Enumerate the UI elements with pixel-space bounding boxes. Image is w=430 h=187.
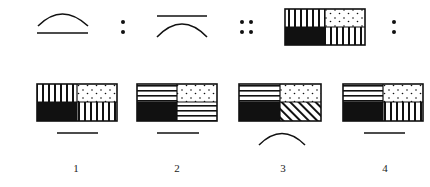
option-1[interactable] (37, 84, 117, 133)
option-3-label: 3 (273, 162, 293, 174)
stem-figure-arc-above-line (37, 14, 88, 33)
option-2[interactable] (137, 84, 217, 133)
ratio-colon-2 (392, 20, 396, 34)
analogy-diagram (0, 0, 430, 187)
option-1-label: 1 (66, 162, 86, 174)
option-4[interactable] (343, 84, 423, 133)
stem-quad-box (285, 9, 365, 45)
stem-figure-line-above-arc (157, 16, 207, 37)
analogy-double-colon (240, 20, 253, 34)
option-4-label: 4 (375, 162, 395, 174)
ratio-colon-1 (121, 20, 125, 34)
option-3[interactable] (239, 84, 321, 145)
option-2-label: 2 (167, 162, 187, 174)
